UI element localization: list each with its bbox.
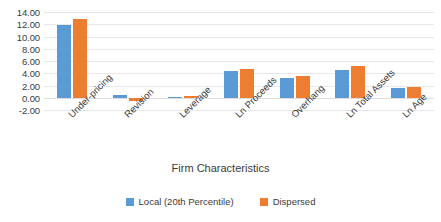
bar <box>168 97 182 98</box>
bar <box>335 70 349 98</box>
bar-chart: 14.0012.0010.008.006.004.002.000.00-2.00… <box>0 0 441 222</box>
y-axis-tick-label: 0.00 <box>0 92 40 103</box>
chart-legend: Local (20th Percentile)Dispersed <box>0 196 441 207</box>
legend-item[interactable]: Local (20th Percentile) <box>126 196 234 207</box>
bar <box>73 19 87 97</box>
y-axis: 14.0012.0010.008.006.004.002.000.00-2.00 <box>0 12 40 110</box>
x-axis: Under-pricingRevisionLeverageLn Proceeds… <box>44 110 434 160</box>
legend-swatch-icon <box>260 198 268 206</box>
y-axis-tick-label: 4.00 <box>0 68 40 79</box>
y-axis-tick-label: 2.00 <box>0 80 40 91</box>
legend-label: Local (20th Percentile) <box>139 196 234 207</box>
bar <box>224 71 238 97</box>
legend-item[interactable]: Dispersed <box>260 196 316 207</box>
x-axis-title: Firm Characteristics <box>0 162 441 174</box>
legend-label: Dispersed <box>273 196 316 207</box>
y-axis-tick-label: 10.00 <box>0 31 40 42</box>
bar <box>113 95 127 98</box>
y-axis-tick-label: 12.00 <box>0 19 40 30</box>
y-axis-tick-label: 6.00 <box>0 56 40 67</box>
legend-swatch-icon <box>126 198 134 206</box>
y-axis-tick-label: 8.00 <box>0 43 40 54</box>
bar <box>280 78 294 98</box>
bar <box>57 25 71 97</box>
bar <box>391 88 405 98</box>
y-axis-tick-label: -2.00 <box>0 105 40 116</box>
y-axis-tick-label: 14.00 <box>0 7 40 18</box>
